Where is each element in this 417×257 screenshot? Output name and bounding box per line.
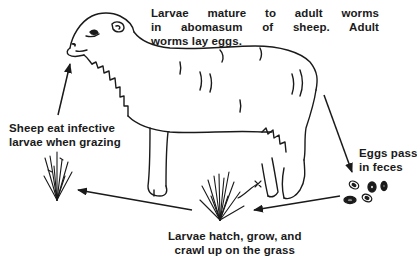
eggs-icon	[344, 179, 387, 203]
grass-tuft-left-icon	[44, 152, 72, 200]
label-line: worms lay eggs.	[151, 34, 379, 48]
arrow-grass-to-mouth	[58, 64, 70, 115]
label-line: Larvae hatch, grow, and	[168, 229, 302, 243]
label-larvae-hatch: Larvae hatch, grow, and crawl up on the …	[168, 229, 302, 257]
label-line: in abomasum of sheep. Adult	[151, 20, 379, 34]
label-line: in feces	[359, 160, 417, 174]
label-line: crawl up on the grass	[168, 243, 302, 257]
arrow-eggs-to-grass	[254, 196, 340, 210]
label-line: Larvae mature to adult worms	[151, 6, 379, 20]
label-line: Eggs pass	[359, 146, 417, 160]
arrow-sheep-to-eggs	[324, 95, 352, 172]
label-line: larvae when grazing	[9, 135, 121, 149]
label-sheep-eat: Sheep eat infective larvae when grazing	[9, 121, 121, 149]
grass-tuft-center-icon	[200, 172, 261, 220]
label-line: Sheep eat infective	[9, 121, 121, 135]
arrow-grass-to-grass	[78, 190, 192, 210]
label-larvae-mature: Larvae mature to adult worms in abomasum…	[151, 6, 379, 48]
label-eggs-pass: Eggs pass in feces	[359, 146, 417, 174]
